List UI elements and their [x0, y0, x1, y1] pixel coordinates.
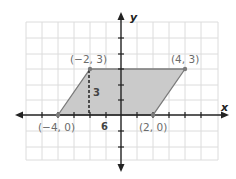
- y-axis-up-arrow-icon: [118, 12, 125, 20]
- x-axis-label: x: [220, 101, 229, 114]
- base-label: 6: [101, 121, 108, 132]
- y-axis-down-arrow-icon: [118, 164, 125, 172]
- vertex-label-top-left: (−2, 3): [70, 53, 107, 65]
- y-axis-label: y: [130, 11, 138, 24]
- x-axis-left-arrow-icon: [15, 112, 23, 119]
- vertex-label-top-right: (4, 3): [171, 53, 199, 65]
- coordinate-plane: y x (−2, 3) (4, 3) (−4, 0) (2, 0) 3 6: [0, 0, 236, 179]
- vertex-label-bottom-right: (2, 0): [139, 121, 167, 133]
- height-label: 3: [93, 87, 100, 98]
- vertex-label-bottom-left: (−4, 0): [38, 121, 75, 133]
